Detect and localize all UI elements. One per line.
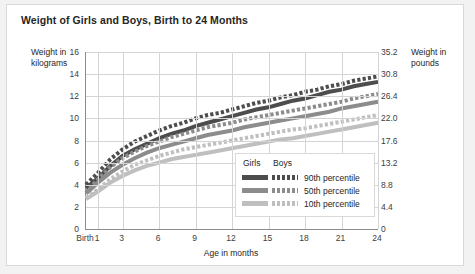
legend-header: Girls Boys [242,158,368,168]
chart-legend: Girls Boys 90th percentile 50th percenti… [235,153,375,217]
y-tick-label-left: 2 [74,202,79,212]
legend-swatch-girls-10 [242,201,268,206]
x-tick-label: Birth [76,233,93,243]
y-tick-label-left: 6 [74,158,79,168]
legend-swatch-girls-90 [242,175,268,180]
chart-title: Weight of Girls and Boys, Birth to 24 Mo… [21,14,248,26]
legend-row-90: 90th percentile [242,171,368,184]
legend-row-10: 10th percentile [242,197,368,210]
y-tick-label-right: 8.8 [381,180,393,190]
legend-swatch-boys-90 [272,175,298,180]
y-axis-right-title: Weight in pounds [411,47,465,69]
gridline-vertical [98,52,99,229]
y-tick-label-left: 12 [70,91,79,101]
gridline-vertical [159,52,160,229]
x-tick-label: 15 [263,233,272,243]
legend-swatch-girls-50 [242,188,268,193]
legend-label-50: 50th percentile [304,186,360,196]
legend-header-girls: Girls [243,158,273,168]
x-tick-label: 3 [119,233,124,243]
y-tick-label-left: 14 [70,69,79,79]
x-tick-label: 24 [372,233,381,243]
legend-label-90: 90th percentile [304,173,360,183]
y-tick-label-right: 26.4 [381,91,398,101]
x-axis-title: Age in months [85,248,377,259]
gridline-vertical [196,52,197,229]
y-tick-label-right: 17.6 [381,136,398,146]
y-tick-label-right: 35.2 [381,47,398,57]
x-tick-label: 9 [192,233,197,243]
gridline-vertical [123,52,124,229]
y-tick-label-right: 30.8 [381,69,398,79]
y-axis-left-ticks: 0246810121416 [59,52,79,229]
legend-label-10: 10th percentile [304,199,360,209]
y-tick-label-right: 13.2 [381,158,398,168]
x-tick-label: 12 [226,233,235,243]
legend-swatch-boys-10 [272,201,298,206]
legend-header-boys: Boys [273,158,292,168]
chart-card: Weight of Girls and Boys, Birth to 24 Mo… [6,4,464,266]
legend-swatch-boys-50 [272,188,298,193]
x-tick-label: 1 [95,233,100,243]
legend-row-50: 50th percentile [242,184,368,197]
y-tick-label-left: 8 [74,136,79,146]
x-tick-label: 6 [156,233,161,243]
y-tick-label-left: 16 [70,47,79,57]
y-tick-label-left: 4 [74,180,79,190]
page-background: Weight of Girls and Boys, Birth to 24 Mo… [0,0,475,274]
x-tick-label: 18 [299,233,308,243]
y-tick-label-right: 4.4 [381,202,393,212]
gridline-vertical [232,52,233,229]
gridline-vertical [378,52,379,229]
y-tick-label-left: 10 [70,113,79,123]
x-tick-label: 21 [336,233,345,243]
y-tick-label-right: 22.0 [381,113,398,123]
y-axis-right-ticks: 04.48.813.217.622.026.430.835.2 [381,52,409,229]
